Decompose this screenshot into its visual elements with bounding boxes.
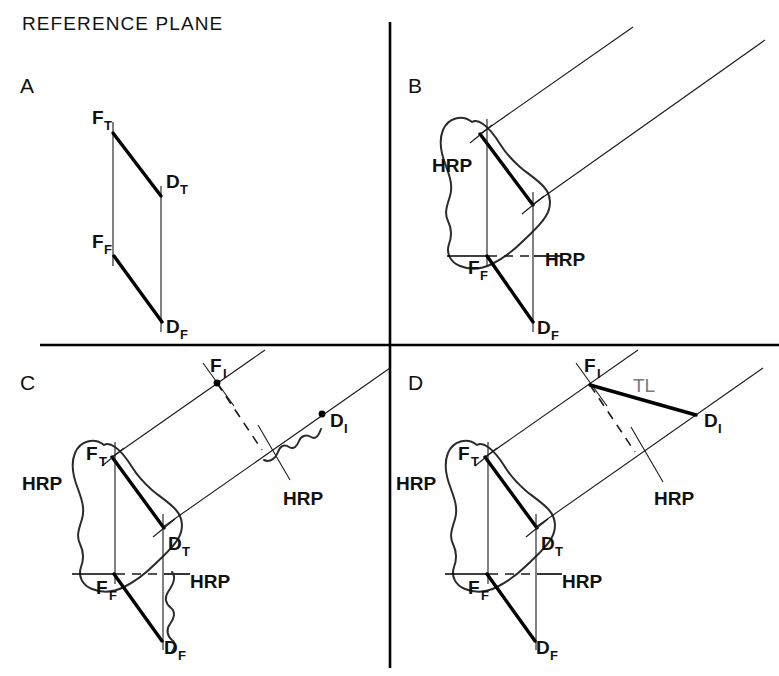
panel-b: B HRP F F HRP D: [408, 27, 765, 343]
label-ff: F: [92, 231, 104, 252]
label-fi: F: [584, 355, 596, 376]
label-df: D: [164, 637, 178, 658]
label-ff-sub: F: [109, 588, 117, 603]
panel-c-aux-hrp-tick-di: [258, 425, 290, 480]
panel-b-front-view-line: [487, 256, 533, 322]
label-di: D: [704, 410, 718, 431]
label-ft-sub: T: [471, 454, 479, 469]
label-hrp-front: HRP: [562, 571, 602, 592]
label-ff: F: [96, 577, 108, 598]
figure-root: REFERENCE PLANE A F T D T F F D F: [0, 0, 779, 676]
label-df-sub: F: [180, 327, 188, 342]
label-hrp-aux: HRP: [654, 488, 694, 509]
panel-b-label: B: [408, 74, 422, 97]
label-dt-sub: T: [180, 182, 188, 197]
panel-b-top-view-line: [480, 134, 533, 205]
label-di-sub: I: [718, 421, 722, 436]
label-hrp-front: HRP: [190, 571, 230, 592]
label-df: D: [536, 637, 550, 658]
label-dt-sub: T: [182, 544, 190, 559]
panel-c-aux-ray-lower: [163, 368, 390, 527]
panel-d-label: D: [408, 371, 423, 394]
label-df-sub: F: [551, 328, 559, 343]
label-ft: F: [86, 443, 98, 464]
label-di-sub: I: [344, 421, 348, 436]
label-df-sub: F: [178, 648, 186, 663]
panel-c-point-labels: F I D I HRP F T D T HRP F F HRP D F: [22, 355, 348, 663]
figure-title: REFERENCE PLANE: [22, 13, 223, 34]
panel-a-point-labels: F T D T F F D F: [92, 107, 188, 342]
panel-b-projection-ray-upper: [480, 27, 633, 134]
panel-dividers: [40, 22, 779, 668]
label-fi-sub: I: [597, 366, 601, 381]
label-hrp-aux: HRP: [283, 488, 323, 509]
label-dt: D: [168, 533, 182, 554]
label-dt: D: [541, 533, 555, 554]
label-ff: F: [468, 257, 480, 278]
reference-plane-figure: REFERENCE PLANE A F T D T F F D F: [0, 0, 779, 676]
panel-c-label: C: [20, 371, 35, 394]
panel-a-front-view-line: [114, 256, 162, 322]
panel-a-top-view-line: [113, 133, 161, 196]
label-ft: F: [458, 443, 470, 464]
label-ft-sub: T: [104, 118, 112, 133]
panel-c: C: [20, 350, 390, 663]
label-df: D: [166, 316, 180, 337]
panel-d-point-labels: F I TL D I HRP F T D T HRP F F HRP D F: [396, 355, 722, 663]
panel-c-aux-dashed-line: [217, 383, 262, 450]
panel-a: A F T D T F F D F: [20, 74, 188, 342]
label-dt: D: [166, 171, 180, 192]
label-ff: F: [468, 577, 480, 598]
panel-c-aux-ray-upper: [112, 350, 265, 457]
panel-b-projection-ray-lower: [532, 40, 765, 205]
label-fi: F: [210, 355, 222, 376]
label-ff-sub: F: [481, 588, 489, 603]
label-fi-sub: I: [223, 366, 227, 381]
panel-b-tick-ft: [470, 125, 492, 143]
label-hrp-front: HRP: [545, 249, 585, 270]
label-df: D: [537, 317, 551, 338]
label-ft-sub: T: [99, 454, 107, 469]
panel-c-point-di: [319, 411, 326, 418]
panel-d-aux-ray-upper: [485, 350, 638, 457]
panel-d-aux-hrp-tick-di: [631, 427, 663, 482]
label-ft: F: [92, 107, 104, 128]
panel-a-label: A: [20, 74, 34, 97]
label-hrp-top: HRP: [432, 155, 472, 176]
label-di: D: [330, 410, 344, 431]
panel-d-front-view-line: [487, 574, 535, 641]
label-hrp-top: HRP: [396, 473, 436, 494]
panel-c-break-symbol-di: [264, 429, 321, 461]
panel-c-front-view-line: [114, 574, 162, 641]
label-ff-sub: F: [104, 242, 112, 257]
label-ff-sub: F: [480, 268, 488, 283]
panel-c-point-fi: [214, 380, 221, 387]
label-df-sub: F: [550, 648, 558, 663]
label-hrp-top: HRP: [22, 473, 62, 494]
panel-d: D: [396, 350, 763, 663]
label-tl: TL: [633, 375, 655, 396]
label-dt-sub: T: [555, 544, 563, 559]
